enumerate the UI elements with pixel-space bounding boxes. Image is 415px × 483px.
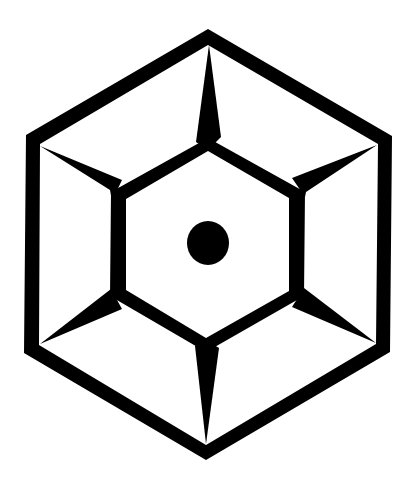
emblem-figure (0, 0, 415, 483)
center-dot (187, 221, 229, 265)
